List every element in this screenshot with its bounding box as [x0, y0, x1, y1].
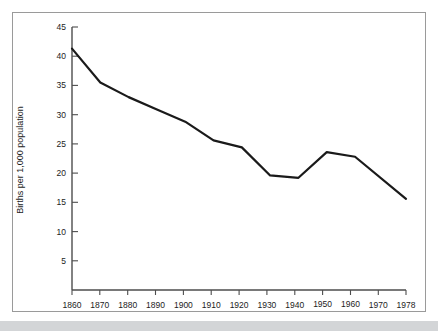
y-axis-title: Births per 1,000 population — [15, 106, 25, 214]
chart-figure: Births per 1,000 population 45 40 35 30 … — [0, 0, 438, 331]
y-tick-label-40: 40 — [50, 52, 66, 61]
x-tick-label-1970: 1970 — [369, 301, 388, 310]
x-tick-label-1870: 1870 — [90, 301, 109, 310]
y-tick-label-45: 45 — [50, 23, 66, 32]
chart-frame-border — [12, 12, 426, 312]
y-tick-label-20: 20 — [50, 169, 66, 178]
y-tick-label-10: 10 — [50, 228, 66, 237]
x-tick-label-1950: 1950 — [313, 300, 332, 309]
x-tick-label-1960: 1960 — [341, 300, 360, 309]
x-tick-label-1930: 1930 — [257, 301, 276, 310]
x-tick-label-1910: 1910 — [202, 301, 221, 310]
y-tick-label-25: 25 — [50, 140, 66, 149]
y-tick-label-35: 35 — [50, 81, 66, 90]
bottom-gray-bar — [0, 321, 438, 331]
x-tick-label-1920: 1920 — [230, 301, 249, 310]
x-tick-label-1978: 1978 — [397, 301, 416, 310]
x-tick-label-1880: 1880 — [118, 301, 137, 310]
y-tick-label-5: 5 — [50, 257, 66, 266]
x-tick-label-1860: 1860 — [63, 301, 82, 310]
y-tick-label-30: 30 — [50, 111, 66, 120]
y-tick-label-15: 15 — [50, 198, 66, 207]
x-tick-label-1890: 1890 — [146, 301, 165, 310]
x-tick-label-1940: 1940 — [285, 301, 304, 310]
x-tick-label-1900: 1900 — [174, 301, 193, 310]
